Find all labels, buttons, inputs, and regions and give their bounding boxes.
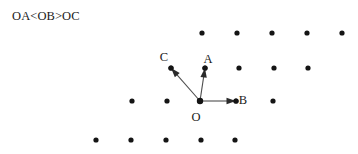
vector-shaft-oc bbox=[176, 74, 200, 101]
vector-label-c: C bbox=[160, 50, 168, 64]
lattice-dot bbox=[93, 137, 98, 142]
origin-group: O bbox=[191, 98, 203, 124]
lattice-dot bbox=[164, 98, 169, 103]
lattice-dot bbox=[269, 30, 274, 35]
vector-endpoint-dot-oa bbox=[202, 65, 207, 70]
origin-dot bbox=[197, 98, 203, 104]
vector-label-b: B bbox=[239, 93, 247, 107]
vector-endpoint-dot-oc bbox=[168, 65, 173, 70]
lattice-dot bbox=[129, 98, 134, 103]
diagram-canvas: OA<OB>OC ABC O bbox=[0, 0, 358, 154]
lattice-dot bbox=[304, 30, 309, 35]
origin-label: O bbox=[191, 110, 200, 124]
lattice-dot bbox=[199, 30, 204, 35]
lattice-dot bbox=[270, 98, 275, 103]
vector-arrowhead-group bbox=[168, 65, 238, 104]
lattice-dot-group bbox=[93, 30, 344, 142]
lattice-dot bbox=[234, 30, 239, 35]
vector-lattice-figure: ABC O bbox=[0, 0, 358, 154]
vector-shaft-oa bbox=[200, 75, 204, 101]
lattice-dot bbox=[271, 65, 276, 70]
vector-line-group bbox=[176, 74, 229, 101]
vector-endpoint-dot-ob bbox=[233, 98, 238, 103]
lattice-dot bbox=[163, 137, 168, 142]
lattice-dot bbox=[198, 137, 203, 142]
lattice-dot bbox=[236, 65, 241, 70]
lattice-dot bbox=[232, 137, 237, 142]
lattice-dot bbox=[128, 137, 133, 142]
lattice-dot bbox=[305, 65, 310, 70]
vector-label-a: A bbox=[203, 52, 212, 66]
lattice-dot bbox=[339, 30, 344, 35]
